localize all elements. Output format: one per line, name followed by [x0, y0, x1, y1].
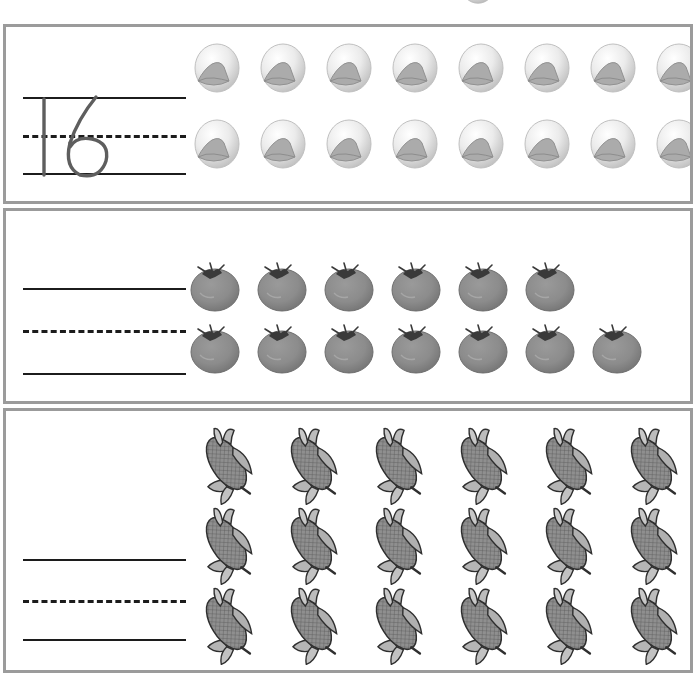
corn-icon [526, 507, 611, 585]
tomato-icon [450, 321, 517, 377]
mushroom-icon [316, 37, 382, 103]
panel-corn [3, 408, 693, 673]
corn-icon [271, 507, 356, 585]
writing-guide-lines [23, 27, 186, 201]
corn-icon [356, 587, 441, 665]
tomato-row-1 [182, 259, 584, 315]
mushroom-icon [250, 37, 316, 103]
guide-line-middle [23, 600, 186, 603]
corn-icon [186, 507, 271, 585]
corn-icon [441, 587, 526, 665]
mushroom-icon [184, 113, 250, 179]
writing-guide-lines [23, 411, 186, 670]
writing-guide-lines [23, 211, 186, 401]
tomato-icon [182, 321, 249, 377]
guide-line-top [23, 559, 186, 561]
corn-icon [356, 507, 441, 585]
guide-line-top [23, 97, 186, 99]
corn-icon [526, 587, 611, 665]
guide-line-bottom [23, 373, 186, 375]
mushroom-icon [514, 113, 580, 179]
tomato-icon [249, 259, 316, 315]
mushroom-icon [452, 0, 504, 12]
corn-icon [186, 587, 271, 665]
mushroom-row-1 [184, 37, 693, 103]
tomato-icon [316, 259, 383, 315]
corn-row-3 [186, 587, 693, 665]
corn-icon [441, 427, 526, 505]
guide-line-middle [23, 330, 186, 333]
corn-icon [271, 427, 356, 505]
corn-icon [611, 427, 693, 505]
worksheet [0, 0, 697, 676]
tomato-icon [316, 321, 383, 377]
guide-line-top [23, 288, 186, 290]
mushroom-icon [382, 37, 448, 103]
corn-row-1 [186, 427, 693, 505]
guide-line-bottom [23, 639, 186, 641]
corn-icon [186, 427, 271, 505]
corn-row-2 [186, 507, 693, 585]
guide-line-middle [23, 135, 186, 138]
mushroom-icon [646, 113, 693, 179]
tomato-icon [517, 321, 584, 377]
corn-icon [526, 427, 611, 505]
panel-tomatoes [3, 208, 693, 404]
mushroom-row-2 [184, 113, 693, 179]
tomato-icon [517, 259, 584, 315]
mushroom-icon [580, 37, 646, 103]
mushroom-icon [382, 113, 448, 179]
corn-icon [611, 587, 693, 665]
mushroom-icon [316, 113, 382, 179]
tomato-icon [450, 259, 517, 315]
corn-icon [356, 427, 441, 505]
tomato-icon [383, 259, 450, 315]
tomato-icon [584, 321, 651, 377]
guide-line-bottom [23, 173, 186, 175]
tomato-icon [182, 259, 249, 315]
corn-icon [611, 507, 693, 585]
mushroom-icon [514, 37, 580, 103]
mushroom-icon [646, 37, 693, 103]
mushroom-icon [448, 113, 514, 179]
mushroom-icon [250, 113, 316, 179]
mushroom-icon [448, 37, 514, 103]
mushroom-icon [184, 37, 250, 103]
tomato-icon [383, 321, 450, 377]
panel-mushrooms [3, 24, 693, 204]
tomato-icon [249, 321, 316, 377]
mushroom-icon [580, 113, 646, 179]
corn-icon [441, 507, 526, 585]
corn-icon [271, 587, 356, 665]
tomato-row-2 [182, 321, 651, 377]
